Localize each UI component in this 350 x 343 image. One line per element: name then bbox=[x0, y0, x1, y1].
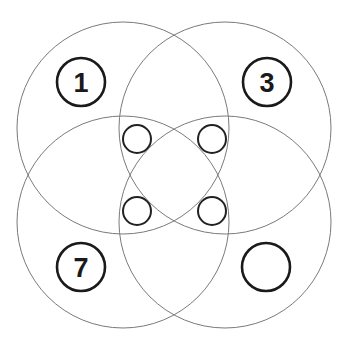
label-1-text: 1 bbox=[73, 68, 88, 98]
big-circle-bottom-right bbox=[119, 116, 331, 328]
big-circle-top-left bbox=[17, 22, 229, 234]
venn-puzzle-diagram: 1 3 7 bbox=[0, 0, 350, 343]
small-circles bbox=[123, 125, 226, 225]
number-labels: 1 3 7 bbox=[57, 58, 291, 291]
label-7-text: 7 bbox=[73, 253, 88, 283]
big-circle-bottom-left bbox=[17, 116, 229, 328]
small-circle-bottom-right bbox=[198, 197, 226, 225]
small-circle-top-left bbox=[123, 125, 151, 153]
label-3-text: 3 bbox=[259, 68, 274, 98]
label-3-group: 3 bbox=[243, 58, 291, 106]
small-circle-top-right bbox=[198, 125, 226, 153]
label-7-group: 7 bbox=[57, 243, 105, 291]
label-missing-group bbox=[242, 243, 290, 291]
label-1-group: 1 bbox=[57, 58, 105, 106]
missing-answer-ring bbox=[242, 243, 290, 291]
diagram-svg: 1 3 7 bbox=[0, 0, 350, 343]
big-circle-top-right bbox=[119, 22, 331, 234]
small-circle-bottom-left bbox=[123, 197, 151, 225]
